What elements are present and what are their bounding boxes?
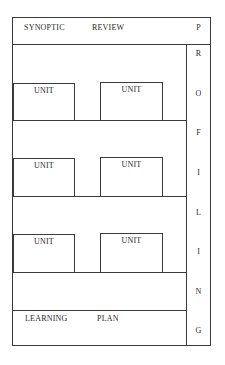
header-synoptic-label: SYNOPTIC	[24, 23, 65, 32]
profiling-letter-r: R	[186, 49, 211, 58]
unit-label: UNIT	[14, 161, 74, 170]
unit-box-row1-right: UNIT	[100, 82, 163, 120]
footer-plan-label: PLAN	[97, 314, 119, 323]
profiling-letter-i2: I	[186, 247, 211, 256]
header-review-label: REVIEW	[92, 23, 124, 32]
profiling-letter-l: L	[186, 208, 211, 217]
unit-box-row2-right: UNIT	[100, 157, 163, 196]
profiling-letter-g: G	[186, 326, 211, 335]
course-structure-diagram: SYNOPTIC REVIEW P R O F I L I N G UNIT U…	[0, 0, 225, 365]
profiling-letter-i: I	[186, 168, 211, 177]
profiling-letter-n: N	[186, 287, 211, 296]
unit-row-1-baseline	[12, 120, 187, 121]
unit-label: UNIT	[101, 236, 162, 245]
unit-label: UNIT	[101, 85, 162, 94]
unit-box-row2-left: UNIT	[13, 158, 75, 196]
unit-label: UNIT	[14, 86, 74, 95]
header-divider	[12, 44, 211, 45]
unit-row-2-baseline	[12, 196, 187, 197]
footer-learning-label: LEARNING	[25, 314, 67, 323]
profiling-letter-o: O	[186, 89, 211, 98]
profiling-letter-f: F	[186, 128, 211, 137]
unit-label: UNIT	[101, 160, 162, 169]
unit-box-row1-left: UNIT	[13, 83, 75, 120]
unit-box-row3-left: UNIT	[13, 234, 75, 272]
learning-plan-divider	[12, 310, 187, 311]
unit-box-row3-right: UNIT	[100, 233, 163, 272]
unit-row-3-baseline	[12, 272, 187, 273]
unit-label: UNIT	[14, 237, 74, 246]
profiling-letter-p: P	[186, 23, 211, 32]
